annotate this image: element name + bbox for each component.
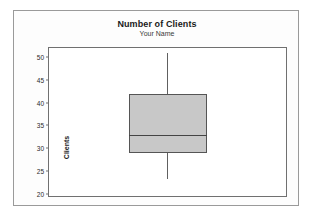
y-tick-label: 50 <box>19 54 49 61</box>
whisker-upper <box>167 53 168 94</box>
y-tick-label: 45 <box>19 76 49 83</box>
chart-subtitle: Your Name <box>14 30 300 37</box>
chart-title: Number of Clients <box>14 19 300 29</box>
boxplot-figure: Number of Clients Your Name Clients 5045… <box>0 0 313 218</box>
y-tick-label: 35 <box>19 122 49 129</box>
graph-window-frame: Number of Clients Your Name Clients 5045… <box>13 10 299 206</box>
y-tick-label: 20 <box>19 190 49 197</box>
box-iqr <box>129 94 207 153</box>
plot-area-frame: Clients 50454035302520 <box>48 47 287 197</box>
y-tick-label: 40 <box>19 99 49 106</box>
median-line <box>129 135 207 136</box>
y-tick-label: 30 <box>19 145 49 152</box>
plot-inner: 50454035302520 <box>49 48 286 196</box>
y-tick-label: 25 <box>19 167 49 174</box>
whisker-lower <box>167 153 168 179</box>
